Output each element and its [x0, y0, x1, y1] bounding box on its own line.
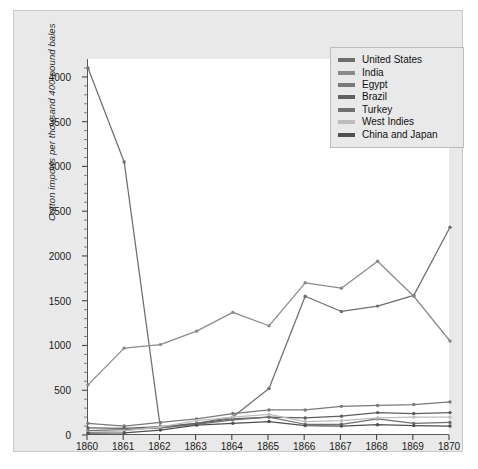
data-point [267, 408, 270, 411]
legend-label: Turkey [362, 104, 392, 116]
data-point [376, 260, 379, 263]
x-tick-label: 1860 [76, 441, 98, 452]
data-point [412, 424, 415, 427]
data-point [304, 420, 307, 423]
legend-item[interactable]: India [338, 66, 457, 78]
y-tick-label: 4000 [7, 71, 78, 82]
data-point [231, 422, 234, 425]
data-point [448, 415, 451, 418]
data-point [159, 425, 162, 428]
data-point [86, 422, 89, 425]
legend-item[interactable]: Turkey [338, 104, 457, 116]
data-point [159, 343, 162, 346]
data-point [376, 423, 379, 426]
data-point [86, 66, 89, 69]
y-tick-label: 2500 [7, 206, 78, 217]
x-tick-label: 1861 [112, 441, 134, 452]
data-point [195, 329, 198, 332]
legend-label: Egypt [362, 79, 388, 91]
legend-swatch-icon [338, 133, 355, 137]
data-point [448, 424, 451, 427]
legend-swatch-icon [338, 83, 355, 87]
data-point [412, 415, 415, 418]
legend-label: India [362, 67, 384, 79]
data-point [376, 304, 379, 307]
data-point [340, 424, 343, 427]
data-point [159, 421, 162, 424]
x-tick-label: 1868 [365, 441, 387, 452]
legend-item[interactable]: China and Japan [338, 128, 457, 140]
x-tick-label: 1865 [257, 441, 279, 452]
y-axis-tick-labels: 05001000150020002500300035004000 [14, 11, 78, 453]
x-tick-label: 1864 [221, 441, 243, 452]
data-point [267, 413, 270, 416]
data-point [159, 428, 162, 431]
x-axis-tick-labels: 1860186118621863186418651866186718681869… [14, 441, 464, 457]
y-tick-label: 3500 [7, 116, 78, 127]
data-point [412, 412, 415, 415]
legend-item[interactable]: United States [338, 54, 457, 66]
data-point [304, 424, 307, 427]
data-point [195, 419, 198, 422]
data-point [267, 420, 270, 423]
legend-swatch-icon [338, 58, 355, 62]
data-point [231, 415, 234, 418]
data-point [123, 160, 126, 163]
legend-item[interactable]: Egypt [338, 79, 457, 91]
data-point [304, 416, 307, 419]
data-point [340, 419, 343, 422]
data-point [412, 403, 415, 406]
legend-label: Brazil [362, 91, 387, 103]
series-west-indies [86, 413, 451, 434]
data-point [340, 286, 343, 289]
data-point [448, 411, 451, 414]
y-tick-label: 1500 [7, 295, 78, 306]
legend-swatch-icon [338, 95, 355, 99]
legend-swatch-icon [338, 120, 355, 124]
legend-label: China and Japan [362, 129, 438, 141]
y-tick-label: 2000 [7, 250, 78, 261]
data-point [412, 295, 415, 298]
legend-item[interactable]: Brazil [338, 91, 457, 103]
data-point [231, 311, 234, 314]
x-tick-label: 1870 [438, 441, 460, 452]
data-point [448, 400, 451, 403]
legend-item[interactable]: West Indies [338, 116, 457, 128]
legend-swatch-icon [338, 108, 355, 112]
x-tick-label: 1869 [402, 441, 424, 452]
x-tick-label: 1862 [148, 441, 170, 452]
data-point [86, 432, 89, 435]
y-tick-label: 500 [7, 385, 78, 396]
data-point [340, 310, 343, 313]
legend-label: United States [362, 54, 422, 66]
legend-label: West Indies [362, 116, 414, 128]
y-tick-label: 3000 [7, 161, 78, 172]
data-point [267, 324, 270, 327]
y-tick-label: 0 [7, 430, 78, 441]
chart-panel: Cotton imports per thousand 400-pound ba… [13, 10, 463, 452]
data-point [376, 411, 379, 414]
data-point [123, 431, 126, 434]
x-tick-label: 1867 [329, 441, 351, 452]
data-point [304, 281, 307, 284]
chart-root: Cotton imports per thousand 400-pound ba… [0, 0, 478, 469]
data-point [376, 416, 379, 419]
y-tick-label: 1000 [7, 340, 78, 351]
series-india [86, 260, 451, 387]
data-point [448, 339, 451, 342]
data-point [86, 383, 89, 386]
series-line [88, 261, 450, 385]
data-point [448, 226, 451, 229]
data-point [448, 421, 451, 424]
x-tick-label: 1866 [293, 441, 315, 452]
data-point [195, 423, 198, 426]
data-point [123, 346, 126, 349]
data-point [376, 404, 379, 407]
data-point [304, 295, 307, 298]
data-point [340, 405, 343, 408]
data-point [340, 415, 343, 418]
legend-swatch-icon [338, 71, 355, 75]
chart-legend: United StatesIndiaEgyptBrazilTurkeyWest … [330, 47, 464, 148]
data-point [231, 412, 234, 415]
data-point [304, 408, 307, 411]
